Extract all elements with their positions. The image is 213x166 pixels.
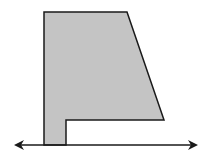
gray-polygon-shape xyxy=(44,12,164,145)
diagram-canvas xyxy=(0,0,213,166)
